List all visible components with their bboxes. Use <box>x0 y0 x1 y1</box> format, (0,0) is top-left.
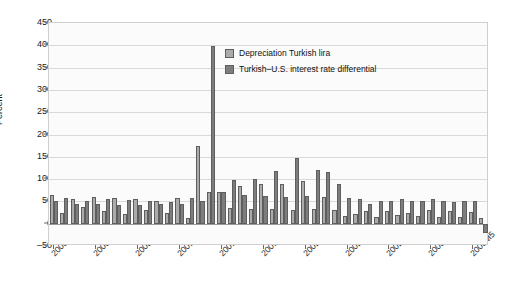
legend-swatch-depreciation-icon <box>225 49 234 58</box>
bar-differential <box>295 158 299 224</box>
bar-differential <box>159 204 163 224</box>
legend-label-depreciation: Depreciation Turkish lira <box>239 48 330 58</box>
bar-differential <box>483 224 487 234</box>
bar-differential <box>400 199 404 224</box>
legend-swatch-differential-icon <box>225 65 234 74</box>
bar-differential <box>148 201 152 223</box>
bar-differential <box>263 196 267 224</box>
bar-differential <box>169 202 173 223</box>
y-axis-title: Percent <box>0 94 4 125</box>
bar-differential <box>389 201 393 224</box>
gridline <box>49 179 487 180</box>
bar-differential <box>431 199 435 224</box>
bar-differential <box>85 201 89 224</box>
legend-item-differential: Turkish–U.S. interest rate differential <box>225 62 376 76</box>
zero-line <box>49 224 487 225</box>
bar-differential <box>284 197 288 224</box>
bar-differential <box>379 201 383 223</box>
bar-differential <box>96 204 100 224</box>
bar-differential <box>452 202 456 223</box>
bar-differential <box>316 170 320 224</box>
chart-figure: Percent –50050100150200250300350400450 2… <box>0 0 508 294</box>
gridline <box>49 112 487 113</box>
bar-differential <box>232 180 236 224</box>
bar-differential <box>138 205 142 224</box>
bar-differential <box>305 196 309 224</box>
bar-differential <box>441 201 445 223</box>
bar-differential <box>75 204 79 224</box>
bar-differential <box>368 204 372 224</box>
bar-differential <box>326 172 330 223</box>
bar-differential <box>242 195 246 224</box>
bar-differential <box>211 46 215 224</box>
bar-differential <box>253 179 257 224</box>
bar-differential <box>410 201 414 223</box>
gridline <box>49 157 487 158</box>
bar-differential <box>274 171 278 224</box>
bar-differential <box>127 200 131 224</box>
bar-differential <box>420 201 424 224</box>
legend-item-depreciation: Depreciation Turkish lira <box>225 46 376 60</box>
bar-differential <box>347 198 351 224</box>
bar-differential <box>337 184 341 223</box>
bar-differential <box>462 201 466 224</box>
gridline <box>49 90 487 91</box>
bar-differential <box>221 192 225 224</box>
chart-legend: Depreciation Turkish lira Turkish–U.S. i… <box>225 46 376 78</box>
bar-differential <box>54 201 58 224</box>
bar-differential <box>200 201 204 224</box>
bar-differential <box>64 198 68 224</box>
bar-differential <box>180 204 184 224</box>
bar-differential <box>117 205 121 224</box>
bar-differential <box>106 199 110 224</box>
bar-differential <box>190 198 194 224</box>
bar-differential <box>358 199 362 224</box>
gridline <box>49 135 487 136</box>
bar-differential <box>473 201 477 223</box>
legend-label-differential: Turkish–U.S. interest rate differential <box>239 64 376 74</box>
